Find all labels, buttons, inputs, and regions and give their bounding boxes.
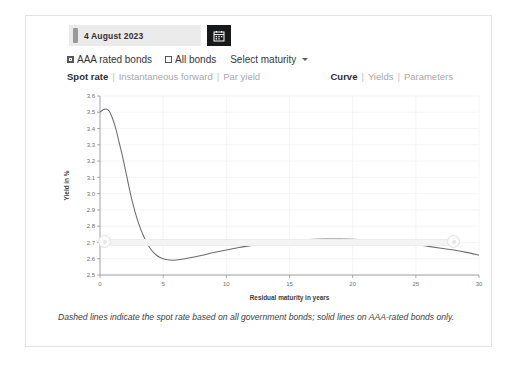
tab-separator: | <box>112 71 114 82</box>
x-axis-title: Residual maturity in years <box>250 294 330 302</box>
maturity-select[interactable]: Select maturity <box>230 54 308 65</box>
checkbox-all-bonds[interactable]: All bonds <box>165 54 216 65</box>
y-tick-label: 2.6 <box>87 256 96 262</box>
calendar-button[interactable] <box>207 25 231 46</box>
slider-track[interactable] <box>105 239 453 246</box>
date-drag-grip[interactable] <box>73 28 78 43</box>
yield-curve-chart: 2.52.62.72.82.93.03.13.23.33.43.53.60510… <box>60 90 485 305</box>
date-value: 4 August 2023 <box>84 31 201 41</box>
y-axis-title: Yield in % <box>63 170 70 200</box>
tab-instantaneous-forward[interactable]: Instantaneous forward <box>119 71 213 82</box>
tab-parameters[interactable]: Parameters <box>404 71 453 82</box>
tab-curve[interactable]: Curve <box>330 71 357 82</box>
checkbox-aaa-rated-bonds-label: AAA rated bonds <box>77 54 152 65</box>
x-tick-label: 15 <box>286 281 293 287</box>
checkbox-all-bonds-box[interactable] <box>165 56 172 63</box>
range-handle-left[interactable] <box>98 235 111 248</box>
tab-spot-rate[interactable]: Spot rate <box>67 71 108 82</box>
y-tick-label: 3.3 <box>87 142 96 148</box>
screenshot-root: 4 August 2023 AAA rate <box>0 0 519 367</box>
curve-type-tabs: Spot rate | Instantaneous forward | Par … <box>67 71 260 82</box>
y-tick-label: 2.5 <box>87 272 96 278</box>
x-tick-label: 5 <box>161 281 165 287</box>
chart-caption: Dashed lines indicate the spot rate base… <box>58 311 463 325</box>
tab-separator: | <box>361 71 363 82</box>
y-tick-label: 3.4 <box>87 126 96 132</box>
maturity-range-slider[interactable] <box>98 235 460 248</box>
tab-yields[interactable]: Yields <box>368 71 394 82</box>
date-field[interactable]: 4 August 2023 <box>69 25 201 46</box>
date-selector[interactable]: 4 August 2023 <box>69 25 231 46</box>
y-tick-label: 3.1 <box>87 175 96 181</box>
tab-separator: | <box>217 71 219 82</box>
chart-canvas: 2.52.62.72.82.93.03.13.23.33.43.53.60510… <box>60 90 485 305</box>
bond-filter-row: AAA rated bonds All bonds Select maturit… <box>67 51 308 67</box>
x-tick-label: 30 <box>476 281 483 287</box>
display-mode-tabs: Curve | Yields | Parameters <box>330 71 453 82</box>
y-tick-label: 3.2 <box>87 158 96 164</box>
calendar-icon <box>213 30 225 42</box>
x-tick-label: 10 <box>223 281 230 287</box>
checkbox-aaa-rated-bonds-box[interactable] <box>67 56 74 63</box>
checkbox-all-bonds-label: All bonds <box>175 54 216 65</box>
y-tick-label: 2.8 <box>87 223 96 229</box>
x-tick-label: 20 <box>349 281 356 287</box>
y-tick-label: 3.5 <box>87 109 96 115</box>
tab-separator: | <box>397 71 399 82</box>
maturity-select-value: Select maturity <box>230 54 296 65</box>
view-tabs: Spot rate | Instantaneous forward | Par … <box>67 69 453 83</box>
tab-par-yield[interactable]: Par yield <box>223 71 260 82</box>
y-tick-label: 3.0 <box>87 191 96 197</box>
checkbox-aaa-rated-bonds[interactable]: AAA rated bonds <box>67 54 152 65</box>
y-tick-label: 2.7 <box>87 240 96 246</box>
chevron-down-icon <box>302 58 308 61</box>
range-handle-right[interactable] <box>447 235 460 248</box>
x-tick-label: 25 <box>412 281 419 287</box>
y-tick-label: 3.6 <box>87 93 96 99</box>
x-tick-label: 0 <box>98 281 102 287</box>
yield-curve-card: 4 August 2023 AAA rate <box>25 15 492 347</box>
y-tick-label: 2.9 <box>87 207 96 213</box>
